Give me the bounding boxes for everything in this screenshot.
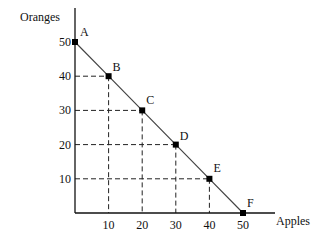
point-marker-f [240,210,246,216]
y-tick-label: 10 [59,172,71,186]
y-tick-label: 20 [59,138,71,152]
y-tick-label: 50 [59,35,71,49]
x-axis-label: Apples [276,214,310,228]
tick-labels: 10203040501020304050 [59,35,249,232]
data-points: ABCDEF [72,25,254,216]
x-tick-label: 40 [203,218,215,232]
point-marker-d [173,142,179,148]
y-axis-label: Oranges [20,10,60,24]
point-marker-b [106,73,112,79]
point-marker-e [206,176,212,182]
point-label-a: A [80,25,89,39]
point-label-d: D [180,129,189,143]
y-tick-label: 40 [59,69,71,83]
x-tick-label: 10 [103,218,115,232]
ppf-line [75,42,243,213]
axes [75,8,275,213]
point-label-b: B [113,60,121,74]
ppf-curve [75,42,243,213]
ppf-chart: ABCDEF 10203040501020304050 Oranges Appl… [0,0,325,244]
point-label-c: C [146,93,154,107]
y-tick-label: 30 [59,103,71,117]
point-label-e: E [213,161,220,175]
point-label-f: F [247,196,254,210]
point-marker-c [139,107,145,113]
x-tick-label: 50 [237,218,249,232]
dashed-guides [75,76,209,213]
x-tick-label: 20 [136,218,148,232]
point-marker-a [72,39,78,45]
x-tick-label: 30 [170,218,182,232]
